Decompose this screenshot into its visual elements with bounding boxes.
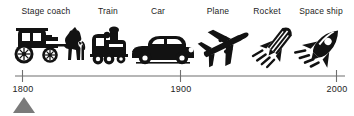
stage-coach-icon (6, 24, 86, 68)
item-label-train: Train (85, 6, 131, 16)
current-position-triangle[interactable] (12, 96, 36, 114)
axis-tick-label-2000: 2000 (322, 84, 352, 94)
train-icon (88, 26, 132, 66)
axis-tick-label-1800: 1800 (8, 84, 38, 94)
item-label-space-ship: Space ship (292, 6, 350, 16)
space-ship-icon (300, 24, 348, 70)
timeline-figure: Stage coach Train Car Plane Rocket Space… (0, 0, 354, 116)
item-label-stage-coach: Stage coach (8, 6, 84, 16)
item-label-rocket: Rocket (243, 6, 291, 16)
rocket-icon (252, 22, 300, 70)
item-label-car: Car (137, 6, 179, 16)
plane-icon (197, 22, 253, 68)
car-icon (130, 34, 196, 66)
axis-tick-label-1900: 1900 (166, 84, 196, 94)
item-label-plane: Plane (196, 6, 240, 16)
